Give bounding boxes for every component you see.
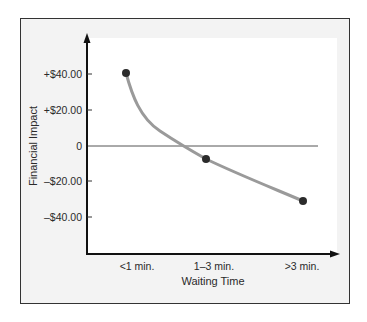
- data-point: [299, 197, 307, 205]
- y-axis-title: Financial Impact: [27, 106, 39, 186]
- y-tick-label: +$40.00: [44, 68, 82, 80]
- data-point: [202, 155, 210, 163]
- data-point: [122, 69, 130, 77]
- y-tick-label: 0: [76, 140, 82, 152]
- y-tick-label: –$20.00: [44, 175, 82, 187]
- x-tick-label: <1 min.: [120, 260, 155, 272]
- line-chart: +$40.00 +$20.00 0 –$20.00 –$40.00 Financ…: [0, 0, 367, 322]
- y-tick-label: +$20.00: [44, 104, 82, 116]
- x-tick-label: >3 min.: [285, 260, 320, 272]
- x-tick-label: 1–3 min.: [194, 260, 234, 272]
- y-tick-label: –$40.00: [44, 211, 82, 223]
- x-axis-title: Waiting Time: [181, 275, 244, 287]
